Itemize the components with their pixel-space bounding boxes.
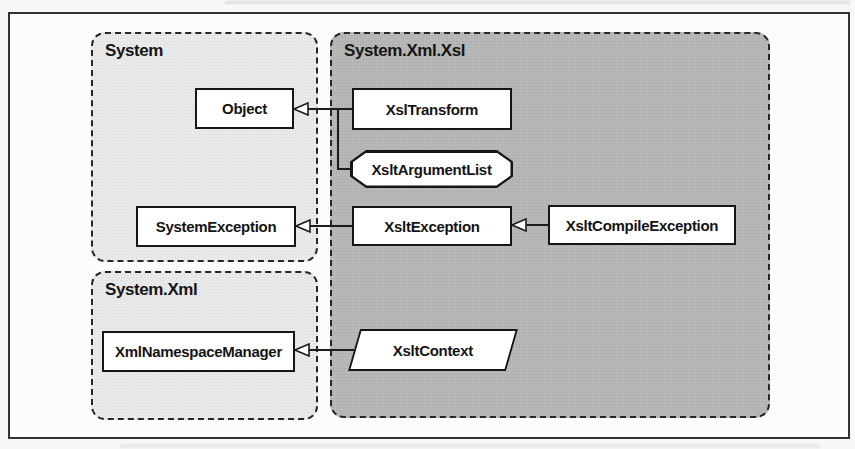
connector-xsltransform-to-object: [308, 108, 353, 110]
class-node-label: XsltCompileException: [566, 217, 718, 234]
class-node-label: XsltContext: [393, 342, 473, 359]
class-node-label: XsltException: [384, 218, 479, 235]
class-node-label: Object: [222, 100, 267, 117]
class-node-xsltcompileexception: XsltCompileException: [548, 205, 736, 245]
class-node-label: XmlNamespaceManager: [115, 343, 282, 360]
inheritance-arrowhead-icon: [293, 102, 309, 116]
inheritance-arrowhead-icon: [511, 218, 527, 232]
scan-artifact: [120, 444, 820, 448]
class-node-xsltexception: XsltException: [352, 206, 512, 246]
connector-xsltcontext-to-xmlnamespacemanager: [309, 349, 356, 351]
scanned-book-figure: System System.Xml System.Xml.Xsl Object …: [0, 0, 855, 449]
connector-xsltexception-to-systemexception: [310, 225, 353, 227]
class-node-xsltargumentlist: XsltArgumentList: [350, 150, 513, 188]
inheritance-arrowhead-icon: [295, 219, 311, 233]
connector-xsltargumentlist-branch-vertical: [337, 108, 339, 170]
class-node-xmlnamespacemanager: XmlNamespaceManager: [102, 331, 295, 372]
namespace-label-system-xml-xsl: System.Xml.Xsl: [344, 41, 465, 61]
class-node-xsltcontext: XsltContext: [348, 329, 518, 371]
namespace-label-system: System: [105, 41, 163, 61]
namespace-label-system-xml: System.Xml: [105, 280, 197, 300]
class-node-label: XsltArgumentList: [371, 161, 491, 178]
class-node-systemexception: SystemException: [136, 206, 296, 247]
class-node-object: Object: [195, 88, 294, 129]
class-node-label: SystemException: [156, 218, 277, 235]
scan-artifact: [225, 1, 850, 4]
inheritance-arrowhead-icon: [294, 343, 310, 357]
class-node-label: XslTransform: [386, 101, 478, 118]
connector-xsltcompileexception-to-xsltexception: [526, 224, 549, 226]
class-node-xsltransform: XslTransform: [352, 88, 512, 130]
